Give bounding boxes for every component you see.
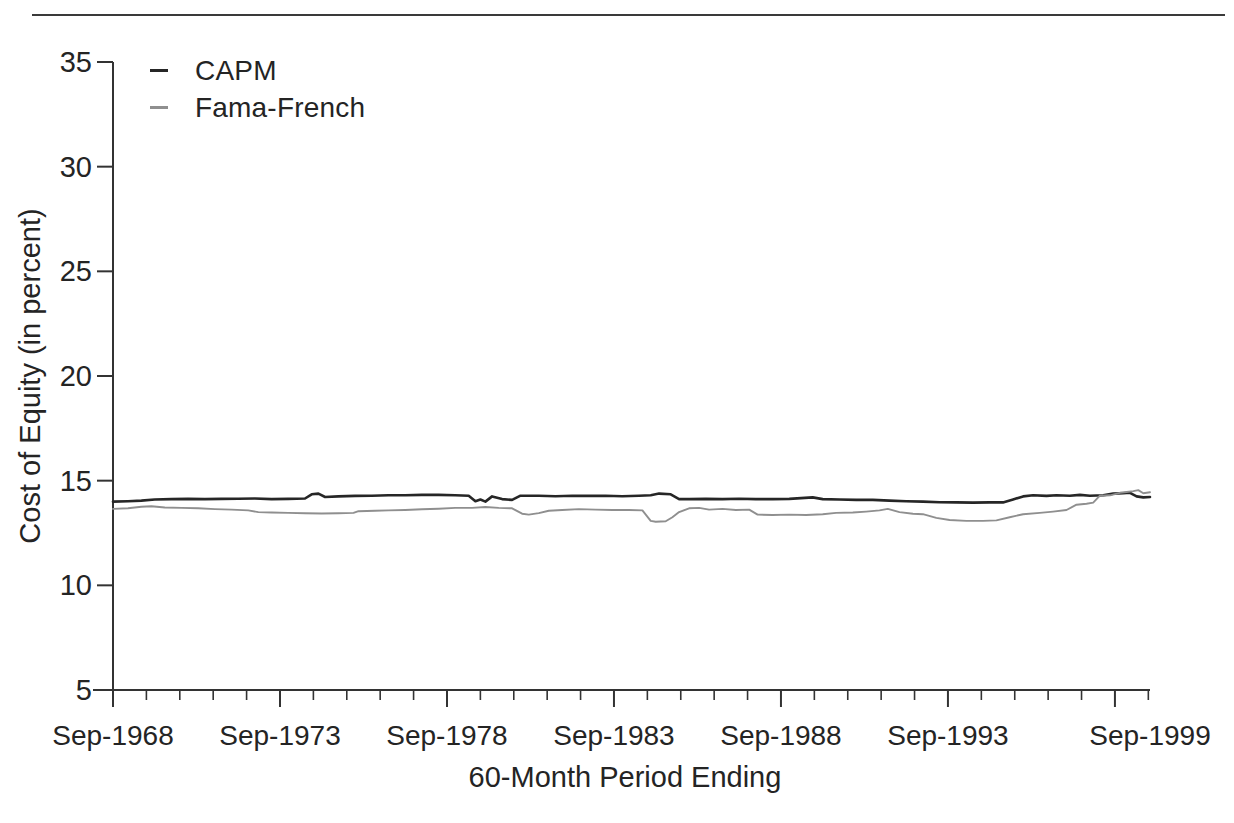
capm-line-swatch-icon	[150, 69, 168, 72]
fama-french-line-swatch-icon	[150, 106, 168, 109]
legend-item-capm: CAPM	[150, 52, 365, 89]
y-tick-label-25: 25	[60, 255, 92, 287]
legend-label-fama-french: Fama-French	[195, 92, 365, 124]
chart-legend: CAPM Fama-French	[150, 52, 365, 126]
y-tick-label-30: 30	[60, 151, 92, 183]
y-tick-label-20: 20	[60, 360, 92, 392]
y-tick-label-35: 35	[60, 46, 92, 78]
x-tick-label-Sep-1973: Sep-1973	[219, 720, 340, 751]
y-tick-label-10: 10	[60, 569, 92, 601]
x-axis-title: 60-Month Period Ending	[469, 761, 782, 793]
series-lines	[113, 490, 1150, 522]
x-tick-label-Sep-1988: Sep-1988	[720, 720, 841, 751]
x-tick-label-Sep-1993: Sep-1993	[887, 720, 1008, 751]
y-tick-label-5: 5	[76, 674, 92, 706]
axes: 5101520253035Sep-1968Sep-1973Sep-1978Sep…	[52, 46, 1210, 751]
legend-label-capm: CAPM	[195, 55, 277, 87]
x-tick-label-Sep-1999: Sep-1999	[1089, 720, 1210, 751]
legend-item-fama-french: Fama-French	[150, 89, 365, 126]
y-tick-label-15: 15	[60, 465, 92, 497]
capm-line	[113, 493, 1150, 503]
y-axis-title: Cost of Equity (in percent)	[14, 208, 46, 543]
figure-page: 5101520253035Sep-1968Sep-1973Sep-1978Sep…	[0, 0, 1234, 823]
x-tick-label-Sep-1978: Sep-1978	[386, 720, 507, 751]
x-tick-label-Sep-1968: Sep-1968	[52, 720, 173, 751]
x-tick-label-Sep-1983: Sep-1983	[553, 720, 674, 751]
